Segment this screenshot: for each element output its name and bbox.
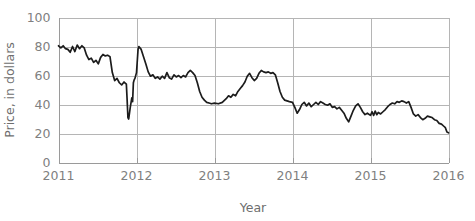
y-tick-label-20: 20 xyxy=(35,126,51,141)
y-axis-title: Price, in dollars xyxy=(2,42,17,138)
x-tick-labels: 201120122013201420152016 xyxy=(43,168,465,183)
x-tick-marks xyxy=(60,158,450,163)
data-line-price xyxy=(59,45,449,133)
y-tick-labels: 020406080100 xyxy=(27,10,51,170)
y-tick-label-40: 40 xyxy=(35,97,51,112)
x-tick-label-2012: 2012 xyxy=(121,168,153,183)
chart-canvas: 020406080100 201120122013201420152016 Ye… xyxy=(0,0,475,221)
x-tick-label-2016: 2016 xyxy=(433,168,465,183)
x-tick-label-2014: 2014 xyxy=(277,168,309,183)
y-tick-label-80: 80 xyxy=(35,39,51,54)
x-tick-label-2013: 2013 xyxy=(199,168,231,183)
x-tick-label-2015: 2015 xyxy=(355,168,387,183)
gridlines-group xyxy=(59,18,450,164)
y-tick-label-60: 60 xyxy=(35,68,51,83)
data-series-group xyxy=(59,45,449,133)
x-tick-label-2011: 2011 xyxy=(43,168,75,183)
price-line-chart: 020406080100 201120122013201420152016 Ye… xyxy=(0,0,475,221)
y-tick-label-100: 100 xyxy=(27,10,51,25)
x-axis-title: Year xyxy=(239,200,267,215)
